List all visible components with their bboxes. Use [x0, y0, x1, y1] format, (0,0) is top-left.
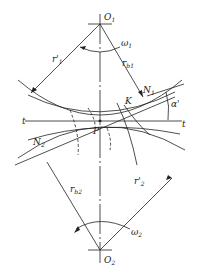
label-k: K: [124, 96, 133, 106]
tooth-profile-4: [88, 108, 95, 128]
label-t-left: t: [22, 116, 26, 126]
label-t-right: t: [182, 119, 186, 129]
gear-mesh-diagram: O1 O2 ω1 ω2 r'1 rb1 rb2 r'2 N1 N2 K P t …: [0, 0, 201, 279]
label-rb1: rb1: [122, 58, 134, 69]
rb2-base-radius-line: [47, 162, 100, 250]
r2-pitch-radius-line: [100, 178, 172, 250]
label-n1: N1: [142, 85, 155, 96]
label-o1: O1: [104, 12, 115, 23]
tooth-profile-3: [70, 110, 78, 155]
gear2-pitch-arc: [28, 127, 180, 140]
label-p: P: [92, 126, 100, 136]
label-r2-pitch: r'2: [134, 176, 145, 187]
label-o2: O2: [104, 255, 115, 266]
tooth-profile-1: [117, 103, 137, 165]
r1-pitch-radius-line: [31, 24, 100, 93]
label-alpha: α': [171, 99, 180, 109]
tooth-profile-5: [107, 128, 111, 150]
label-r1-pitch: r'1: [52, 54, 63, 65]
pitch-point-dot: [99, 120, 102, 123]
label-omega1: ω1: [121, 38, 132, 49]
label-omega2: ω2: [131, 227, 142, 238]
label-rb2: rb2: [70, 184, 82, 195]
label-n2: N2: [32, 137, 45, 148]
